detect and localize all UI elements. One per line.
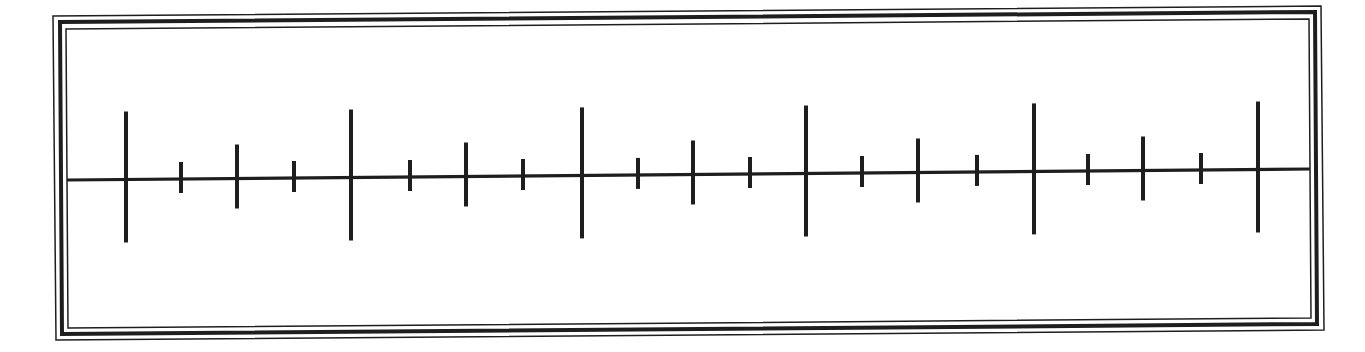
number-line-axis: [67, 169, 1310, 180]
tick-marks: [126, 102, 1258, 243]
number-line-canvas: [0, 0, 1365, 352]
number-line-figure: [0, 0, 1365, 352]
